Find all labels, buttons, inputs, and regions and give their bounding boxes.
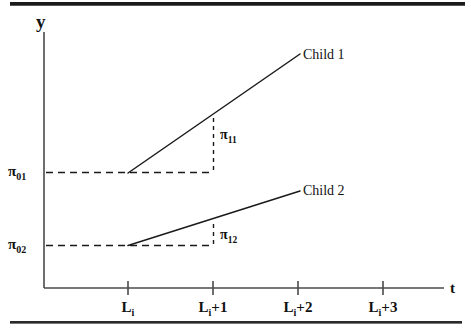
series-label-child-1: Child 1 xyxy=(303,48,345,62)
x-tick-label-3: Li+2 xyxy=(284,300,313,318)
y-tick-label-pi02: π02 xyxy=(8,237,26,255)
y-axis-label: y xyxy=(36,12,46,31)
x-tick-label-2: Li+1 xyxy=(199,300,228,318)
slope-label-pi12: π12 xyxy=(220,228,237,245)
y-tick-label-pi01-sub: 01 xyxy=(16,171,26,182)
x-tick-label-4: Li+3 xyxy=(369,300,398,318)
x-axis-label: t xyxy=(450,281,455,296)
x-tick-label-3-suffix: +2 xyxy=(296,299,312,315)
x-tick-label-3-base: L xyxy=(284,299,294,315)
y-tick-label-pi01: π01 xyxy=(8,164,26,182)
slope-label-pi11: π11 xyxy=(220,128,237,145)
x-tick-label-2-suffix: +1 xyxy=(211,299,227,315)
x-tick-label-1-sub: i xyxy=(132,307,135,318)
slope-label-pi11-base: π xyxy=(220,127,228,142)
chart-plot-area xyxy=(0,0,471,331)
series-line-child-1 xyxy=(128,54,300,173)
slope-label-pi12-sub: 12 xyxy=(228,235,238,245)
series-label-child-2: Child 2 xyxy=(303,184,345,198)
series-line-child-2 xyxy=(128,191,300,246)
x-tick-label-1: Li xyxy=(122,300,135,318)
figure-canvas: y t π01 π02 π11 π12 Child 1 Child 2 Li L… xyxy=(0,0,471,331)
slope-label-pi12-base: π xyxy=(220,227,228,242)
x-tick-label-2-base: L xyxy=(199,299,209,315)
y-tick-label-pi02-sub: 02 xyxy=(16,244,26,255)
y-tick-label-pi02-base: π xyxy=(8,236,16,252)
y-tick-label-pi01-base: π xyxy=(8,163,16,179)
x-tick-label-1-base: L xyxy=(122,299,132,315)
x-tick-label-4-suffix: +3 xyxy=(381,299,397,315)
x-tick-label-4-base: L xyxy=(369,299,379,315)
slope-label-pi11-sub: 11 xyxy=(228,135,237,145)
